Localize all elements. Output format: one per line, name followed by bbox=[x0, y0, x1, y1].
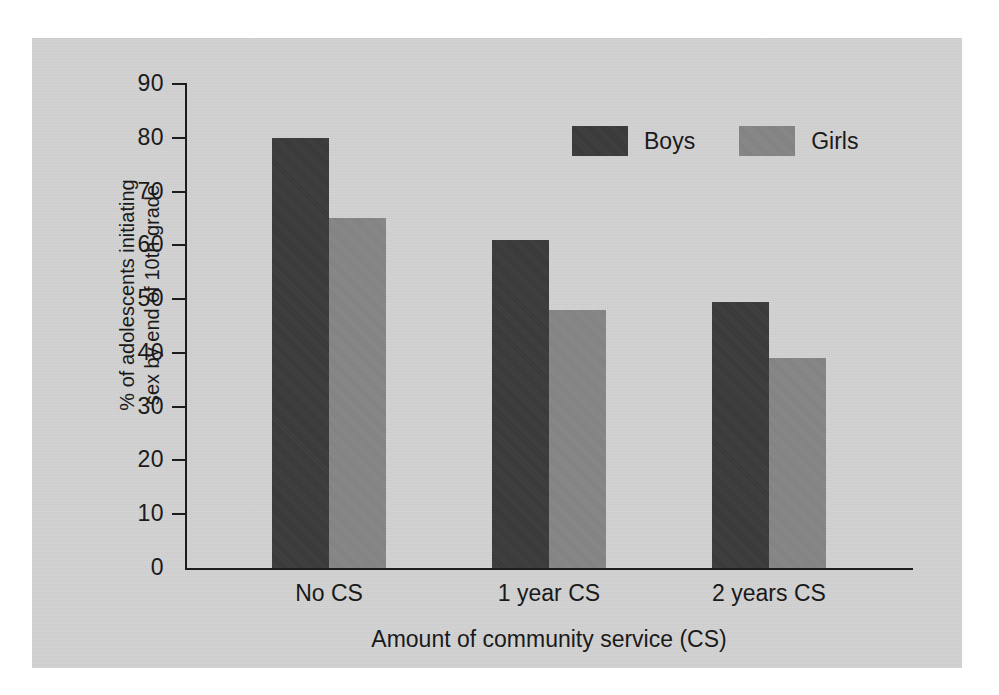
figure-root: % of adolescents initiating sex by end o… bbox=[0, 0, 999, 695]
legend-label-boys: Boys bbox=[644, 130, 695, 153]
x-axis-tick-label: 1 year CS bbox=[439, 582, 659, 605]
x-axis-tick-label: 2 years CS bbox=[659, 582, 879, 605]
y-axis-tick-label: 10 bbox=[44, 502, 164, 525]
x-axis-line bbox=[185, 568, 913, 570]
bar-boys-no-cs bbox=[272, 138, 329, 568]
y-axis-tick-label: 0 bbox=[44, 556, 164, 579]
legend-item-girls: Girls bbox=[739, 126, 858, 156]
y-axis-tick-labels: 0102030405060708090 bbox=[32, 38, 164, 668]
y-axis-tick-label: 90 bbox=[44, 72, 164, 95]
legend-label-girls: Girls bbox=[811, 130, 858, 153]
x-axis-title: Amount of community service (CS) bbox=[185, 626, 913, 653]
y-axis-tick-label: 50 bbox=[44, 287, 164, 310]
legend-item-boys: Boys bbox=[572, 126, 695, 156]
legend-swatch-girls-icon bbox=[739, 126, 795, 156]
y-axis-tick-label: 40 bbox=[44, 341, 164, 364]
bar-girls-1-year-cs bbox=[549, 310, 606, 568]
y-axis-tick-label: 30 bbox=[44, 395, 164, 418]
plot-area bbox=[185, 84, 913, 568]
legend-swatch-boys-icon bbox=[572, 126, 628, 156]
bar-boys-1-year-cs bbox=[492, 240, 549, 568]
bar-girls-2-years-cs bbox=[769, 358, 826, 568]
y-axis-tick-label: 70 bbox=[44, 180, 164, 203]
chart-panel: % of adolescents initiating sex by end o… bbox=[32, 38, 962, 668]
chart-legend: Boys Girls bbox=[572, 126, 858, 156]
y-axis-tick-label: 60 bbox=[44, 233, 164, 256]
bar-girls-no-cs bbox=[329, 218, 386, 568]
x-axis-tick-label: No CS bbox=[219, 582, 439, 605]
y-axis-tick-label: 80 bbox=[44, 126, 164, 149]
y-axis-tick-label: 20 bbox=[44, 448, 164, 471]
bar-boys-2-years-cs bbox=[712, 302, 769, 568]
